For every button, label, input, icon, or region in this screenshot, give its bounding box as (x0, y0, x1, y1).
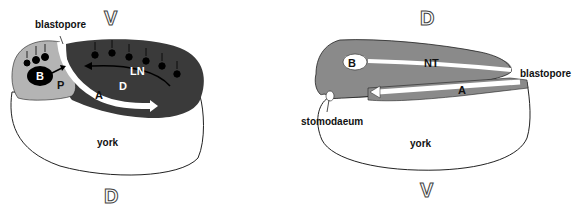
left-blastopore-label: blastopore (35, 19, 87, 30)
right-stomodaeum-label: stomodaeum (301, 116, 363, 127)
right-top-axis-label: D (420, 7, 434, 29)
left-embryo: blastopore B P LN D A york V D (11, 7, 204, 207)
left-ln-label: LN (130, 65, 145, 77)
left-b-label: B (36, 70, 44, 82)
right-nt-label: NT (424, 57, 439, 69)
right-blastopore-label: blastopore (520, 68, 572, 79)
right-b-label: B (348, 57, 356, 69)
stomodaeum-notch (326, 91, 334, 101)
right-yolk-label: york (410, 138, 432, 149)
left-bottom-axis-label: D (104, 185, 118, 207)
left-d-label: D (119, 80, 127, 92)
left-yolk-label: york (97, 137, 119, 148)
left-top-axis-label: V (104, 7, 118, 29)
embryo-diagram: blastopore B P LN D A york V D B NT blas… (0, 0, 577, 210)
left-p-label: P (57, 79, 64, 91)
right-a-label: A (458, 84, 466, 96)
right-embryo: B NT blastopore A stomodaeum york D V (301, 7, 572, 201)
left-a-label: A (95, 89, 103, 101)
right-bottom-axis-label: V (420, 179, 434, 201)
